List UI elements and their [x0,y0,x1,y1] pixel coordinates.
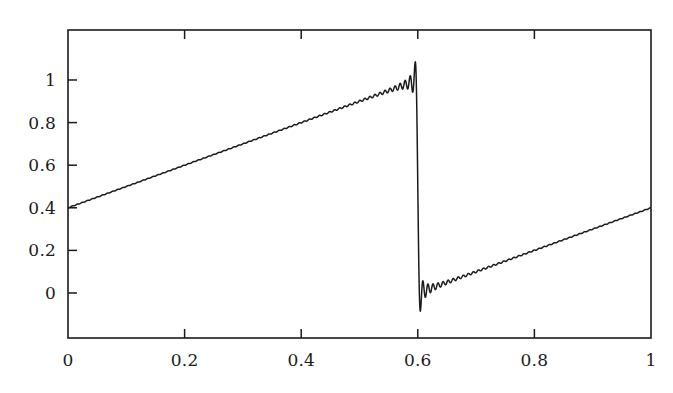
gibbs-phenomenon-chart: 00.20.40.60.81 00.20.40.60.81 [0,0,673,393]
x-tick-label: 0.2 [171,350,199,370]
y-tick-label: 0 [45,283,56,303]
x-tick-label: 0.4 [287,350,315,370]
y-tick-label: 0.6 [28,155,56,175]
y-tick-label: 0.4 [28,198,56,218]
x-tick-label: 0.6 [404,350,432,370]
x-tick-label: 0.8 [521,350,549,370]
x-tick-label: 0 [62,350,73,370]
x-tick-label: 1 [645,350,656,370]
chart-figure: 00.20.40.60.81 00.20.40.60.81 [0,0,673,393]
y-tick-label: 1 [45,70,56,90]
y-tick-label: 0.2 [28,240,56,260]
y-tick-label: 0.8 [28,113,56,133]
